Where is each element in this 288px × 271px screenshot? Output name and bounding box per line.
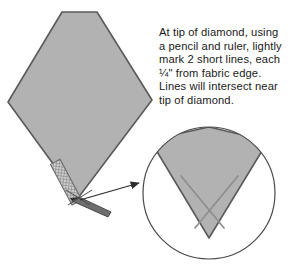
magnified-inset <box>143 127 275 259</box>
instruction-text: At tip of diamond, using a pencil and ru… <box>159 26 287 108</box>
diagram-canvas: At tip of diamond, using a pencil and ru… <box>0 0 288 271</box>
magnified-tip-wedge <box>150 127 268 238</box>
fabric-diamond-shape <box>8 12 152 198</box>
